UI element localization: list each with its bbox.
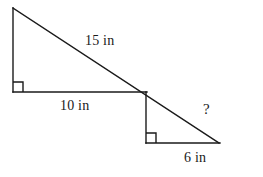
label-base-upper: 10 in — [60, 99, 89, 113]
lower-triangle-right-angle-marker — [146, 133, 156, 143]
shared-hypotenuse — [13, 8, 219, 143]
figure-canvas — [0, 0, 263, 177]
label-hypotenuse-upper: 15 in — [85, 34, 114, 48]
geometry-figure: 15 in 10 in 6 in ? — [0, 0, 263, 177]
upper-triangle-right-angle-marker — [13, 82, 23, 92]
label-unknown-length: ? — [203, 102, 210, 116]
label-base-lower: 6 in — [184, 151, 206, 165]
